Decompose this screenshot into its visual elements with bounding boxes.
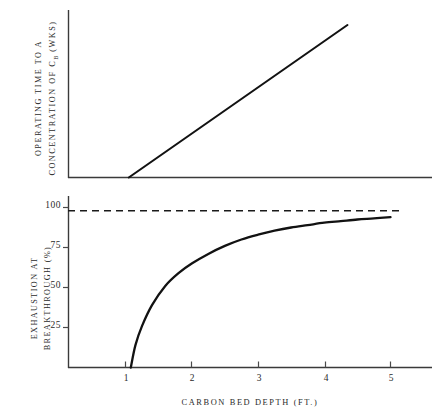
x-axis-title: CARBON BED DEPTH (FT.) bbox=[68, 398, 432, 407]
lower-x-tick-label-2: 2 bbox=[180, 373, 204, 383]
lower-y-axis-title: EXHAUSTION AT BREAKTHROUGH (%) bbox=[18, 238, 62, 358]
chart-canvas bbox=[0, 0, 443, 420]
upper-y-axis-title-subscript-b: B bbox=[52, 55, 59, 60]
lower-x-tick-label-5: 5 bbox=[379, 373, 403, 383]
upper-panel bbox=[68, 10, 432, 178]
lower-x-tick-label-1: 1 bbox=[114, 373, 138, 383]
lower-x-tick-label-3: 3 bbox=[247, 373, 271, 383]
lower-panel bbox=[63, 196, 432, 368]
upper-operating-time-line bbox=[129, 25, 348, 178]
lower-y-axis-title-line2: BREAKTHROUGH (%) bbox=[43, 238, 52, 358]
upper-y-axis-title-line2-post: (WKS) bbox=[48, 20, 57, 55]
chart-figure: OPERATING TIME TO A CONCENTRATION OF CB … bbox=[0, 0, 443, 420]
lower-y-axis-title-line1: EXHAUSTION AT bbox=[30, 238, 39, 358]
lower-y-tick-label-25: 25 bbox=[36, 320, 61, 330]
lower-x-tick-label-4: 4 bbox=[314, 373, 338, 383]
lower-y-tick-label-50: 50 bbox=[36, 280, 61, 290]
lower-y-tick-label-75: 75 bbox=[36, 240, 61, 250]
exhaustion-breakthrough-curve bbox=[131, 217, 391, 367]
lower-y-tick-label-100: 100 bbox=[36, 200, 61, 210]
